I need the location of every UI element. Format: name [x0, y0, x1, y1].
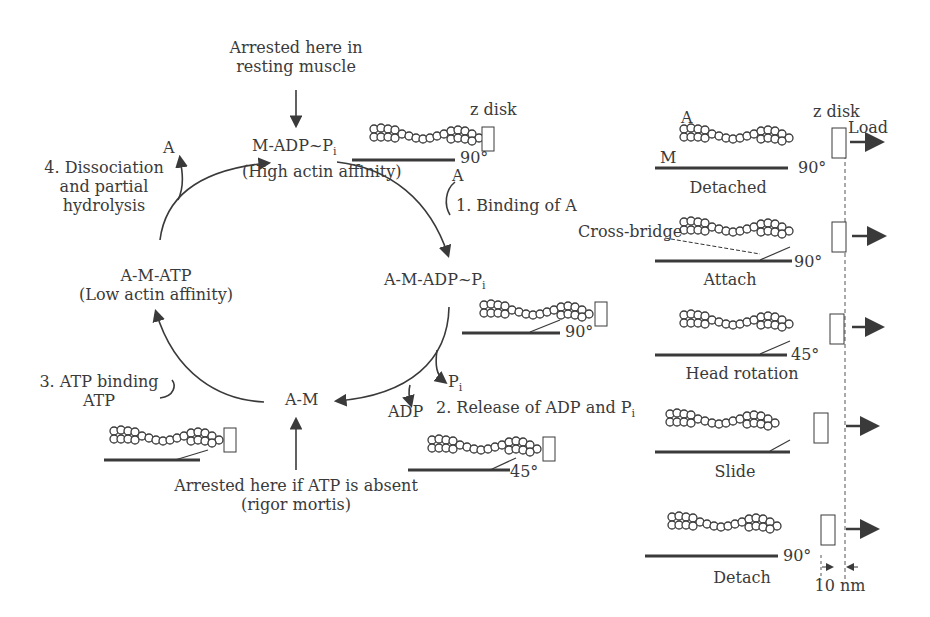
state-label: A-M-ATP	[79, 266, 233, 285]
subscript: i	[482, 279, 486, 292]
actin-label: A	[681, 108, 693, 127]
species: P	[448, 372, 459, 391]
note-line: Arrested here if ATP is absent	[174, 476, 418, 495]
low-affinity-note: (Low actin affinity)	[79, 285, 233, 304]
note-line: (rigor mortis)	[174, 495, 418, 514]
filament-illustrations	[0, 0, 930, 617]
state-a-m: A-M	[285, 390, 318, 409]
angle-label: 90°	[794, 252, 822, 271]
label-line: and partial	[44, 177, 163, 196]
state-m-adp-pi: M-ADP~Pi	[252, 136, 337, 161]
angle-label: 45°	[791, 345, 819, 364]
label-line: 3. ATP binding	[39, 372, 158, 391]
state-label: M-ADP~P	[252, 136, 333, 155]
label-line: 4. Dissociation	[44, 158, 163, 177]
state-a-m-atp: A-M-ATP (Low actin affinity)	[79, 266, 233, 304]
subscript: i	[333, 145, 337, 158]
stage-detached: Detached	[689, 178, 766, 197]
rigor-note: Arrested here if ATP is absent (rigor mo…	[174, 476, 418, 514]
angle-label: 90°	[798, 158, 826, 177]
zdisk-label-cycle: z disk	[470, 100, 517, 119]
high-affinity-note: (High actin affinity)	[242, 162, 402, 181]
step4-species: A	[163, 138, 175, 157]
scale-label: 10 nm	[815, 576, 866, 595]
label-line: hydrolysis	[44, 196, 163, 215]
cross-bridge-label: Cross-bridge	[578, 222, 682, 241]
step3-label: 3. ATP binding ATP	[39, 372, 158, 410]
step1-species: A	[452, 166, 464, 185]
subscript: i	[459, 381, 463, 394]
note-line: Arrested here in	[229, 38, 362, 57]
resting-muscle-note: Arrested here in resting muscle	[229, 38, 362, 76]
angle-label: 45°	[510, 462, 538, 481]
note-line: resting muscle	[229, 57, 362, 76]
stage-detach: Detach	[713, 568, 771, 587]
step2-pi: Pi	[448, 372, 462, 397]
myosin-label: M	[660, 148, 676, 167]
stage-slide: Slide	[715, 462, 756, 481]
label: 2. Release of ADP and P	[436, 398, 632, 417]
stage-head-rotation: Head rotation	[685, 364, 798, 383]
species: ATP	[39, 391, 158, 410]
step2-adp: ADP	[388, 402, 423, 421]
subscript: i	[632, 407, 636, 420]
step2-label: 2. Release of ADP and Pi	[436, 398, 635, 423]
step4-label: 4. Dissociation and partial hydrolysis	[44, 158, 163, 215]
angle-label: 90°	[783, 546, 811, 565]
stage-attach: Attach	[704, 270, 757, 289]
step1-label: 1. Binding of A	[456, 196, 577, 215]
angle-label: 90°	[565, 322, 593, 341]
angle-label: 90°	[460, 148, 488, 167]
load-label: Load	[848, 118, 888, 137]
state-label: A-M-ADP~P	[384, 270, 482, 289]
state-a-m-adp-pi: A-M-ADP~Pi	[384, 270, 486, 295]
